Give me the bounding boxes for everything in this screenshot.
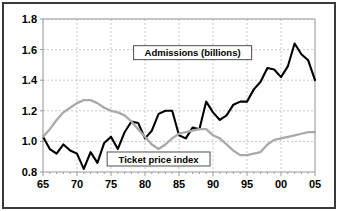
x-tick-label: 00 — [275, 178, 287, 190]
x-tick-label: 70 — [71, 178, 83, 190]
x-tick-label: 95 — [241, 178, 253, 190]
annotation-callout: Admissions (billions) — [134, 46, 252, 60]
y-tick-label: 1.4 — [22, 74, 38, 86]
annotation-label: Admissions (billions) — [145, 47, 241, 58]
x-tick-label: 80 — [139, 178, 151, 190]
annotation-label: Ticket price index — [119, 154, 200, 165]
y-tick-label: 1.0 — [22, 135, 37, 147]
y-axis-tick-labels: 0.81.01.21.41.61.8 — [22, 13, 38, 178]
annotation-callout: Ticket price index — [107, 152, 210, 166]
line-chart: 0.81.01.21.41.61.8 657075808590950005 Ad… — [0, 0, 338, 211]
y-tick-label: 1.8 — [22, 13, 37, 25]
y-tick-label: 1.6 — [22, 44, 37, 56]
data-series — [43, 43, 315, 168]
x-axis-tick-labels: 657075808590950005 — [37, 178, 321, 190]
series-line-admissions — [43, 43, 315, 168]
y-tick-label: 0.8 — [22, 166, 37, 178]
x-tick-label: 90 — [207, 178, 219, 190]
gridlines — [43, 19, 315, 172]
x-tick-label: 75 — [105, 178, 117, 190]
x-tick-label: 85 — [173, 178, 185, 190]
chart-figure: 0.81.01.21.41.61.8 657075808590950005 Ad… — [0, 0, 338, 211]
x-tick-label: 65 — [37, 178, 49, 190]
x-tick-label: 05 — [309, 178, 321, 190]
y-tick-label: 1.2 — [22, 105, 37, 117]
